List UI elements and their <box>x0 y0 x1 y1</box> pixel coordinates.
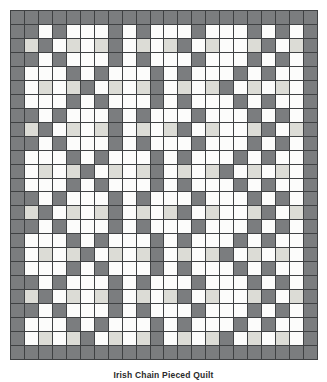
quilt-cell <box>25 137 38 150</box>
quilt-cell <box>151 234 164 247</box>
quilt-cell <box>137 262 150 275</box>
quilt-cell <box>123 290 136 303</box>
quilt-cell <box>178 165 191 178</box>
quilt-cell <box>53 332 66 345</box>
quilt-cell <box>234 165 247 178</box>
quilt-cell <box>25 192 38 205</box>
quilt-cell <box>25 332 38 345</box>
quilt-cell <box>151 137 164 150</box>
quilt-cell <box>11 248 24 261</box>
quilt-cell <box>220 304 233 317</box>
quilt-cell <box>67 123 80 136</box>
quilt-cell <box>137 206 150 219</box>
quilt-cell <box>53 25 66 38</box>
quilt-cell <box>192 53 205 66</box>
quilt-cell <box>178 95 191 108</box>
quilt-cell <box>164 53 177 66</box>
quilt-cell <box>164 220 177 233</box>
figure-caption: Irish Chain Pieced Quilt <box>0 370 327 380</box>
quilt-cell <box>304 179 317 192</box>
quilt-cell <box>123 123 136 136</box>
quilt-cell <box>164 81 177 94</box>
quilt-cell <box>39 81 52 94</box>
quilt-cell <box>95 304 108 317</box>
quilt-cell <box>276 53 289 66</box>
quilt-cell <box>290 276 303 289</box>
quilt-cell <box>53 318 66 331</box>
quilt-cell <box>304 81 317 94</box>
quilt-cell <box>248 81 261 94</box>
quilt-cell <box>137 81 150 94</box>
quilt-cell <box>290 67 303 80</box>
quilt-cell <box>276 220 289 233</box>
quilt-cell <box>262 165 275 178</box>
quilt-cell <box>39 206 52 219</box>
quilt-cell <box>262 304 275 317</box>
quilt-cell <box>11 39 24 52</box>
quilt-cell <box>25 67 38 80</box>
quilt-cell <box>248 25 261 38</box>
quilt-cell <box>276 123 289 136</box>
quilt-cell <box>164 290 177 303</box>
quilt-cell <box>123 25 136 38</box>
quilt-cell <box>276 192 289 205</box>
quilt-cell <box>109 332 122 345</box>
quilt-cell <box>109 151 122 164</box>
quilt-cell <box>262 179 275 192</box>
quilt-cell <box>25 11 38 24</box>
quilt-cell <box>137 11 150 24</box>
quilt-cell <box>109 318 122 331</box>
quilt-cell <box>81 81 94 94</box>
quilt-cell <box>234 95 247 108</box>
quilt-cell <box>290 206 303 219</box>
quilt-cell <box>11 53 24 66</box>
quilt-cell <box>25 25 38 38</box>
quilt-cell <box>11 234 24 247</box>
quilt-cell <box>220 332 233 345</box>
quilt-cell <box>39 248 52 261</box>
quilt-cell <box>192 179 205 192</box>
quilt-cell <box>25 318 38 331</box>
quilt-cell <box>11 25 24 38</box>
quilt-cell <box>276 137 289 150</box>
quilt-cell <box>220 290 233 303</box>
quilt-cell <box>123 109 136 122</box>
quilt-cell <box>25 304 38 317</box>
quilt-cell <box>81 137 94 150</box>
quilt-cell <box>151 192 164 205</box>
quilt-cell <box>123 220 136 233</box>
quilt-cell <box>151 39 164 52</box>
quilt-cell <box>95 276 108 289</box>
quilt-cell <box>109 137 122 150</box>
quilt-cell <box>11 346 24 359</box>
quilt-cell <box>248 290 261 303</box>
quilt-cell <box>234 346 247 359</box>
quilt-cell <box>137 248 150 261</box>
quilt-cell <box>81 39 94 52</box>
quilt-cell <box>123 332 136 345</box>
quilt-cell <box>67 81 80 94</box>
quilt-cell <box>192 123 205 136</box>
quilt-cell <box>178 53 191 66</box>
quilt-cell <box>234 234 247 247</box>
quilt-cell <box>39 123 52 136</box>
quilt-cell <box>123 95 136 108</box>
quilt-cell <box>192 206 205 219</box>
quilt-cell <box>192 332 205 345</box>
quilt-cell <box>11 318 24 331</box>
quilt-cell <box>248 192 261 205</box>
quilt-cell <box>234 151 247 164</box>
quilt-cell <box>164 332 177 345</box>
quilt-cell <box>95 318 108 331</box>
quilt-cell <box>137 276 150 289</box>
quilt-cell <box>290 290 303 303</box>
quilt-cell <box>95 346 108 359</box>
quilt-cell <box>25 346 38 359</box>
quilt-cell <box>290 123 303 136</box>
quilt-cell <box>206 25 219 38</box>
quilt-cell <box>192 220 205 233</box>
quilt-cell <box>123 248 136 261</box>
quilt-cell <box>178 262 191 275</box>
quilt-cell <box>290 179 303 192</box>
quilt-cell <box>137 123 150 136</box>
